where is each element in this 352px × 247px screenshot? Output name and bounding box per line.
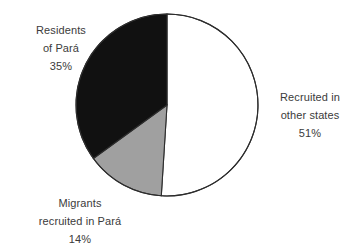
pie-label-recruited-other-states: Recruited in other states 51% — [268, 88, 352, 142]
pie-label-residents-line1: Residents — [14, 21, 108, 39]
pie-label-migrants-value: 14% — [6, 230, 154, 247]
pie-label-recruited-other-line2: other states — [268, 106, 352, 124]
pie-chart-figure: Residents of Pará 35% Recruited in other… — [0, 0, 352, 247]
pie-slice-recruited-other-states[interactable] — [161, 14, 258, 196]
pie-label-migrants-recruited-in-para: Migrants recruited in Pará 14% — [6, 194, 154, 247]
pie-label-residents-line2: of Pará — [14, 39, 108, 57]
pie-label-migrants-line1: Migrants — [6, 194, 154, 212]
pie-label-residents-value: 35% — [14, 57, 108, 75]
pie-label-recruited-other-line1: Recruited in — [268, 88, 352, 106]
pie-label-residents-of-para: Residents of Pará 35% — [14, 21, 108, 75]
pie-label-migrants-line2: recruited in Pará — [6, 212, 154, 230]
pie-label-recruited-other-value: 51% — [268, 124, 352, 142]
